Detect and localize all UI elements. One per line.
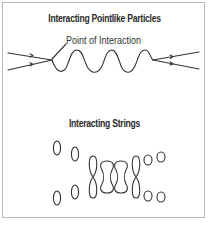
- closed-string-loop: [71, 185, 78, 199]
- closed-string-loop: [144, 191, 152, 201]
- string-interaction: [53, 141, 165, 205]
- closed-string-loop: [144, 155, 152, 165]
- peanut-string: [101, 161, 114, 193]
- outgoing-particle-line: [153, 60, 199, 69]
- diagram-art: [0, 0, 209, 225]
- closed-string-loop: [53, 191, 60, 205]
- closed-string-loop: [157, 192, 165, 202]
- pointlike-interaction: [8, 44, 199, 72]
- incoming-particle-line: [8, 60, 52, 70]
- closed-string-loop: [71, 147, 78, 161]
- peanut-string: [115, 161, 128, 193]
- exchange-wave: [52, 50, 153, 72]
- figure-eight-string: [89, 156, 97, 198]
- figure-eight-string: [132, 156, 140, 198]
- closed-string-loop: [53, 141, 60, 155]
- callout-leader-line: [52, 44, 66, 59]
- closed-string-loop: [157, 152, 165, 162]
- outgoing-particle-line: [153, 52, 199, 60]
